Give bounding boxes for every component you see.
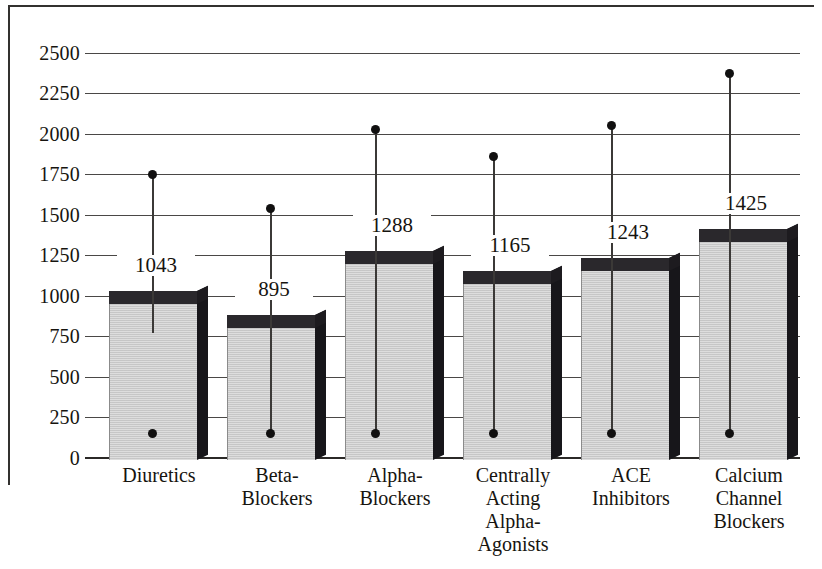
y-tick-label: 1000 — [14, 286, 80, 306]
y-tick-label: 1750 — [14, 164, 80, 184]
bar-side-face — [197, 286, 208, 460]
x-category-label-calcium-channel-blockers: Calcium Channel Blockers — [674, 464, 822, 533]
range-high-marker-beta-blockers — [266, 204, 275, 213]
y-tick-label: 2250 — [14, 83, 80, 103]
y-tick-label: 750 — [14, 326, 80, 346]
gridline-2000 — [85, 134, 800, 135]
y-tick-label: 250 — [14, 407, 80, 427]
bar-top-face — [463, 271, 551, 284]
bar-calcium-channel-blockers[interactable] — [699, 229, 787, 460]
plot-area: 1043 895 1288 — [85, 50, 800, 460]
y-tick-label: 1250 — [14, 245, 80, 265]
bar-value-label-beta-blockers: 895 — [235, 279, 313, 300]
range-high-marker-alpha-blockers — [371, 125, 380, 134]
bar-value-label-calcium-channel-blockers: 1425 — [707, 193, 785, 214]
range-low-marker-beta-blockers — [266, 429, 275, 438]
range-high-marker-diuretics — [148, 170, 157, 179]
range-low-marker-calcium-channel-blockers — [725, 429, 734, 438]
bar-value-label-alpha-blockers: 1288 — [353, 215, 431, 236]
bar-alpha-blockers[interactable] — [345, 251, 433, 460]
y-tick-label: 500 — [14, 367, 80, 387]
range-high-marker-calcium-channel-blockers — [725, 69, 734, 78]
y-tick-label: 2000 — [14, 124, 80, 144]
error-bar-line-centrally-acting-alpha-agonists — [493, 157, 495, 433]
bar-top-face — [345, 251, 433, 264]
gridline-2250 — [85, 93, 800, 94]
bar-top-face — [699, 229, 787, 242]
bar-side-face — [315, 310, 326, 460]
range-low-marker-diuretics — [148, 429, 157, 438]
chart-figure: 2500 2250 2000 1750 1500 1250 1000 750 5… — [0, 0, 822, 569]
bar-top-face — [581, 258, 669, 271]
range-high-marker-ace-inhibitors — [607, 121, 616, 130]
range-low-marker-alpha-blockers — [371, 429, 380, 438]
bar-front-face — [581, 258, 669, 460]
bar-value-label-diuretics: 1043 — [117, 255, 195, 276]
y-tick-label: 0 — [14, 448, 80, 468]
error-bar-line-beta-blockers — [270, 208, 272, 433]
y-tick-label: 1500 — [14, 205, 80, 225]
bar-front-face — [699, 229, 787, 460]
range-low-marker-centrally-acting-alpha-agonists — [489, 429, 498, 438]
bar-side-face — [669, 253, 680, 460]
bar-front-face — [345, 251, 433, 460]
y-tick-label: 2500 — [14, 43, 80, 63]
bar-centrally-acting-alpha-agonists[interactable] — [463, 271, 551, 460]
gridline-1750 — [85, 174, 800, 175]
bar-value-label-centrally-acting-alpha-agonists: 1165 — [471, 235, 549, 256]
figure-left-border — [8, 5, 10, 485]
bar-side-face — [551, 266, 562, 460]
bar-side-face — [787, 224, 798, 460]
figure-top-border — [8, 5, 814, 7]
bar-side-face — [433, 246, 444, 460]
error-bar-line-alpha-blockers — [375, 130, 377, 433]
bar-ace-inhibitors[interactable] — [581, 258, 669, 460]
range-high-marker-centrally-acting-alpha-agonists — [489, 152, 498, 161]
range-low-marker-ace-inhibitors — [607, 429, 616, 438]
bar-front-face — [463, 271, 551, 460]
gridline-1500 — [85, 215, 800, 216]
error-bar-line-ace-inhibitors — [611, 126, 613, 433]
gridline-2500 — [85, 53, 800, 54]
bar-value-label-ace-inhibitors: 1243 — [589, 222, 667, 243]
error-bar-line-calcium-channel-blockers — [729, 74, 731, 433]
